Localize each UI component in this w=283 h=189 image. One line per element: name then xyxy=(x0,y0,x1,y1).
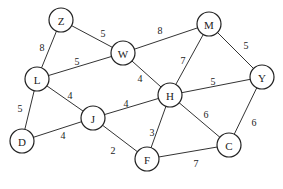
edge-weight-F-C: 7 xyxy=(194,158,199,169)
edge-L-W xyxy=(37,53,123,79)
weighted-graph: 58584755454423667 ZWMLHYDJFC xyxy=(0,0,283,189)
edge-W-M xyxy=(123,24,209,53)
node-W: W xyxy=(111,41,135,65)
edge-H-Y xyxy=(170,77,262,95)
node-M: M xyxy=(197,12,221,36)
node-label: D xyxy=(18,136,26,148)
node-Z: Z xyxy=(49,8,73,32)
edge-weight-Y-C: 6 xyxy=(252,117,257,128)
node-L: L xyxy=(25,67,49,91)
edge-weight-M-Y: 5 xyxy=(244,40,249,51)
node-label: F xyxy=(144,154,150,166)
edge-weight-J-F: 2 xyxy=(111,145,116,156)
nodes-layer: ZWMLHYDJFC xyxy=(10,8,274,171)
edge-weight-M-H: 7 xyxy=(181,55,186,66)
edge-weight-J-H: 4 xyxy=(124,98,129,109)
node-H: H xyxy=(158,83,182,107)
node-Y: Y xyxy=(250,65,274,89)
node-label: C xyxy=(225,140,232,152)
node-label: Z xyxy=(58,15,65,27)
node-label: H xyxy=(166,90,174,102)
edge-weight-H-C: 6 xyxy=(204,109,209,120)
node-F: F xyxy=(135,147,159,171)
node-label: M xyxy=(204,19,214,31)
edge-weight-H-Y: 5 xyxy=(211,76,216,87)
edge-weight-H-F: 3 xyxy=(150,127,155,138)
node-label: J xyxy=(91,113,96,125)
node-label: W xyxy=(118,48,129,60)
node-label: Y xyxy=(258,72,266,84)
node-C: C xyxy=(217,133,241,157)
edge-weight-Z-L: 8 xyxy=(40,42,45,53)
edge-weight-W-H: 4 xyxy=(138,73,143,84)
edge-weight-L-D: 5 xyxy=(18,103,23,114)
node-D: D xyxy=(10,129,34,153)
edge-weight-L-W: 5 xyxy=(75,56,80,67)
node-J: J xyxy=(81,106,105,130)
edge-weight-L-J: 4 xyxy=(68,90,73,101)
edge-weight-Z-W: 5 xyxy=(101,28,106,39)
edge-weight-D-J: 4 xyxy=(61,130,66,141)
edge-weight-W-M: 8 xyxy=(158,25,163,36)
node-label: L xyxy=(34,74,41,86)
